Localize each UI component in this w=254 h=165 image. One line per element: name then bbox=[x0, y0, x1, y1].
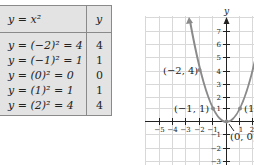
svg-text:1: 1 bbox=[217, 105, 221, 113]
svg-text:−3: −3 bbox=[180, 126, 190, 134]
svg-text:7: 7 bbox=[217, 28, 221, 36]
svg-text:−4: −4 bbox=[167, 126, 178, 134]
y-axis-label: y bbox=[223, 6, 230, 16]
label-neg1-1: (−1, 1) bbox=[174, 103, 209, 114]
svg-text:6: 6 bbox=[217, 41, 222, 49]
svg-text:2: 2 bbox=[217, 94, 221, 102]
svg-text:−1: −1 bbox=[211, 131, 221, 139]
svg-text:−5: −5 bbox=[154, 126, 164, 134]
svg-text:4: 4 bbox=[217, 68, 222, 76]
svg-text:−3: −3 bbox=[211, 158, 221, 165]
origin-leader-line bbox=[229, 124, 234, 131]
y-axis-arrow-icon bbox=[224, 17, 230, 24]
svg-text:−2: −2 bbox=[211, 145, 221, 153]
ticks bbox=[160, 32, 253, 162]
svg-text:3: 3 bbox=[217, 81, 221, 89]
label-neg2-4: (−2, 4) bbox=[163, 65, 198, 76]
svg-text:5: 5 bbox=[217, 54, 221, 62]
svg-text:−2: −2 bbox=[194, 126, 204, 134]
label-1-1: (1 bbox=[244, 103, 254, 114]
curve-arrow-icon bbox=[186, 17, 193, 24]
label-origin: (0, 0) bbox=[230, 131, 254, 142]
grid bbox=[145, 16, 254, 165]
parabola-graph: −5 −4 −3 −2 −1 1 2 7 6 5 4 3 2 1 −1 −2 −… bbox=[0, 0, 254, 165]
